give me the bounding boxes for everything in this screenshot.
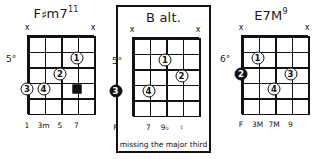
chord-title-root: E7M	[254, 8, 282, 23]
string-line-5	[94, 36, 96, 115]
mute-mark-string-1: x	[130, 26, 135, 34]
interval-label-F: F	[113, 123, 117, 132]
interval-label-: ♮	[180, 123, 183, 132]
chord-title-extension: 11	[68, 5, 79, 14]
chord-title-fsharp-m7-11: F♯m711	[0, 6, 112, 21]
finger-dot-1-fsharp-m7-11: 1	[70, 52, 83, 65]
chord-chart-figure: F♯m7115°xx123413m57B alt.5°xx1234F79♭♮mi…	[0, 0, 327, 159]
fret-line-5	[242, 114, 310, 116]
string-line-1	[133, 38, 135, 117]
interval-label-1: 1	[25, 121, 30, 130]
string-line-1	[28, 36, 30, 115]
string-line-5	[308, 36, 310, 115]
finger-dot-3-e7m-9: 3	[284, 67, 297, 80]
chord-title-quality: alt.	[155, 10, 181, 25]
mute-mark-string-5: x	[305, 24, 310, 32]
mute-mark-string-5: x	[196, 26, 201, 34]
chord-title-extension: 9	[283, 7, 288, 16]
chord-panel-e7m-9: E7M96°xx1234F3M7M9	[215, 0, 327, 159]
interval-label-3M: 3M	[252, 120, 263, 129]
fretboard-grid	[241, 35, 308, 114]
string-line-2	[150, 38, 152, 117]
string-line-4	[78, 36, 80, 115]
mute-mark-string-1: x	[25, 24, 30, 32]
fretboard-grid	[132, 37, 199, 116]
fret-line-2	[242, 67, 310, 69]
string-line-2	[45, 36, 47, 115]
string-line-5	[199, 38, 201, 117]
fret-line-0	[28, 36, 96, 38]
finger-dot-barre-fsharp-m7-11	[72, 85, 81, 94]
interval-label-9: 9	[288, 120, 293, 129]
interval-label-5: 5	[58, 121, 63, 130]
mute-mark-string-1: x	[239, 24, 244, 32]
finger-dot-2-b-alt: 2	[175, 69, 188, 82]
finger-dot-4-fsharp-m7-11: 4	[37, 83, 50, 96]
fret-line-2	[133, 69, 201, 71]
chord-title-e7m-9: E7M9	[215, 8, 327, 23]
chord-panel-fsharp-m7-11: F♯m7115°xx123413m57	[0, 0, 112, 159]
interval-label-7: 7	[146, 123, 151, 132]
fret-line-1	[28, 52, 96, 54]
finger-dot-4-e7m-9: 4	[268, 83, 281, 96]
fret-line-4	[133, 100, 201, 102]
fret-position-marker: 6°	[220, 54, 230, 64]
string-line-3	[166, 38, 168, 117]
interval-label-F: F	[239, 120, 243, 129]
fret-line-4	[242, 98, 310, 100]
chord-title-quality: m7	[47, 6, 68, 21]
chord-panel-b-alt: B alt.5°xx1234F79♭♮missing the major thi…	[112, 0, 215, 159]
string-line-3	[275, 36, 277, 115]
fret-line-4	[28, 98, 96, 100]
fret-line-0	[242, 36, 310, 38]
mute-mark-string-5: x	[91, 24, 96, 32]
finger-dot-4-b-alt: 4	[142, 85, 155, 98]
fret-position-marker: 5°	[6, 54, 16, 64]
finger-dot-2-e7m-9: 2	[235, 67, 248, 80]
interval-label-3m: 3m	[37, 121, 49, 130]
fret-line-5	[28, 114, 96, 116]
fret-line-5	[133, 116, 201, 118]
chord-title-b-alt: B alt.	[112, 10, 215, 25]
chord-title-accidental: ♯	[41, 8, 46, 22]
interval-label-9: 9♭	[161, 123, 169, 132]
fret-position-marker: 5°	[112, 56, 122, 66]
string-line-2	[259, 36, 261, 115]
finger-dot-2-fsharp-m7-11: 2	[54, 67, 67, 80]
finger-dot-3-b-alt: 3	[109, 85, 122, 98]
interval-label-7: 7	[74, 121, 79, 130]
interval-label-7M: 7M	[268, 120, 279, 129]
finger-dot-3-fsharp-m7-11: 3	[21, 83, 34, 96]
chord-note-caption: missing the major third	[112, 140, 215, 149]
finger-dot-1-e7m-9: 1	[251, 52, 264, 65]
fret-line-0	[133, 38, 201, 40]
finger-dot-1-b-alt: 1	[159, 54, 172, 67]
chord-title-root: B	[146, 10, 155, 25]
